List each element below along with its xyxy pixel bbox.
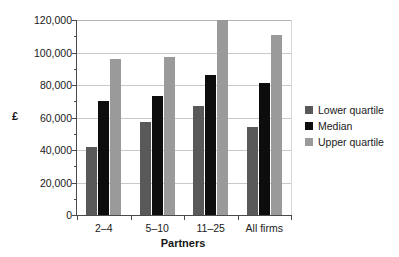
x-axis-tick — [238, 215, 239, 220]
y-axis-tick-label: 80,000 — [4, 79, 72, 91]
bar-group — [193, 20, 228, 215]
y-axis-minor-tick — [74, 101, 77, 102]
y-axis-tick-labels: 020,00040,00060,00080,000100,000120,000 — [0, 0, 72, 257]
y-axis-minor-tick — [74, 69, 77, 70]
x-axis-tick — [131, 215, 132, 220]
legend-label: Median — [318, 120, 352, 132]
bar-upper — [110, 59, 121, 215]
x-axis-tick-label: 2–4 — [95, 222, 113, 234]
legend-swatch-icon — [305, 122, 313, 130]
y-axis-tick-label: 0 — [4, 209, 72, 221]
x-axis-tick-label: All firms — [246, 222, 283, 234]
y-axis-tick — [72, 183, 77, 184]
bar-median — [98, 101, 109, 215]
x-axis-tick — [291, 215, 292, 220]
y-axis-tick-label: 20,000 — [4, 177, 72, 189]
legend-label: Lower quartile — [318, 104, 384, 116]
legend-item: Median — [305, 119, 397, 132]
legend-item: Lower quartile — [305, 103, 397, 116]
bar-lower — [140, 122, 151, 215]
bar-group — [247, 20, 282, 215]
y-axis-tick-label: 120,000 — [4, 14, 72, 26]
bar-median — [205, 75, 216, 215]
bar-chart: £ 020,00040,00060,00080,000100,000120,00… — [0, 0, 399, 257]
chart-legend: Lower quartileMedianUpper quartile — [305, 103, 397, 151]
bar-lower — [247, 127, 258, 215]
bar-upper — [217, 20, 228, 215]
plot-area: 2–45–1011–25All firms — [76, 20, 291, 216]
x-axis-tick — [184, 215, 185, 220]
bar-lower — [193, 106, 204, 215]
plot-frame-right-edge — [291, 20, 292, 215]
y-axis-tick-label: 100,000 — [4, 47, 72, 59]
y-axis-tick-label: 60,000 — [4, 112, 72, 124]
bar-group — [86, 20, 121, 215]
x-axis-title: Partners — [76, 237, 290, 249]
y-axis-minor-tick — [74, 199, 77, 200]
y-axis-tick — [72, 118, 77, 119]
bar-group — [140, 20, 175, 215]
bar-median — [152, 96, 163, 215]
x-axis-tick-label: 5–10 — [146, 222, 169, 234]
y-axis-tick — [72, 85, 77, 86]
y-axis-tick-label: 40,000 — [4, 144, 72, 156]
x-axis-tick-label: 11–25 — [197, 222, 225, 234]
x-axis-tick — [77, 215, 78, 220]
y-axis-tick — [72, 150, 77, 151]
legend-swatch-icon — [305, 138, 313, 146]
bar-upper — [164, 57, 175, 215]
y-axis-minor-tick — [74, 134, 77, 135]
bar-upper — [271, 35, 282, 215]
legend-item: Upper quartile — [305, 135, 397, 148]
y-axis-minor-tick — [74, 166, 77, 167]
y-axis-tick — [72, 20, 77, 21]
legend-swatch-icon — [305, 106, 313, 114]
y-axis-tick — [72, 53, 77, 54]
y-axis-minor-tick — [74, 36, 77, 37]
bar-median — [259, 83, 270, 215]
legend-label: Upper quartile — [318, 136, 384, 148]
bar-lower — [86, 147, 97, 215]
